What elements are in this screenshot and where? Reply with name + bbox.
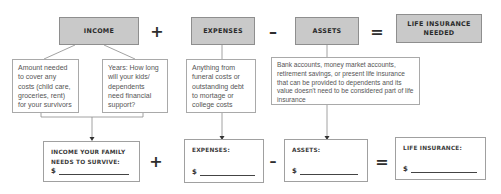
result-expenses-label: EXPENSES:: [192, 145, 256, 155]
result-income: INCOME YOUR FAMILY NEEDS TO SURVIVE: $: [43, 141, 140, 182]
connector-income-right: [104, 45, 135, 59]
operator-minus-bottom: –: [266, 149, 280, 173]
dollar-sign: $: [51, 167, 56, 175]
dollar-sign: $: [403, 165, 408, 173]
header-life-insurance-needed: LIFE INSURANCE NEEDED: [396, 14, 482, 43]
result-life-insurance: LIFE INSURANCE: $: [395, 137, 486, 180]
life-insurance-input[interactable]: $: [403, 165, 477, 173]
operator-equals-top: =: [368, 18, 386, 44]
dollar-sign: $: [192, 168, 197, 176]
result-assets: ASSETS: $: [284, 139, 368, 182]
operator-minus-top: –: [264, 18, 282, 44]
result-life-insurance-label: LIFE INSURANCE:: [403, 143, 478, 153]
description-income-amount: Amount needed to cover any costs (child …: [12, 59, 79, 113]
result-income-label: INCOME YOUR FAMILY NEEDS TO SURVIVE:: [51, 147, 131, 167]
header-expenses: EXPENSES: [191, 17, 255, 45]
description-assets: Bank accounts, money market accounts, re…: [271, 57, 420, 105]
header-expenses-label: EXPENSES: [203, 27, 243, 36]
result-assets-label: ASSETS:: [292, 145, 360, 155]
operator-plus-top: +: [148, 18, 166, 44]
expenses-input[interactable]: $: [192, 168, 255, 176]
connector-income-left: [44, 45, 75, 59]
operator-equals-bottom: =: [374, 149, 390, 173]
blank-line: [200, 174, 255, 176]
description-expenses: Anything from funeral costs or outstandi…: [186, 59, 256, 113]
header-assets-label: ASSETS: [313, 27, 342, 36]
connector-income-bracket: [41, 113, 143, 117]
header-assets: ASSETS: [295, 17, 359, 45]
header-life-insurance-label: LIFE INSURANCE NEEDED: [407, 20, 471, 37]
blank-line: [59, 173, 129, 175]
assets-input[interactable]: $: [292, 167, 358, 175]
header-income: INCOME: [59, 17, 139, 45]
operator-plus-bottom: +: [147, 149, 165, 173]
income-input[interactable]: $: [51, 167, 129, 175]
blank-line: [411, 171, 477, 173]
header-income-label: INCOME: [84, 27, 114, 36]
dollar-sign: $: [292, 167, 297, 175]
description-income-years: Years: How long will your kids/ dependen…: [102, 59, 168, 113]
blank-line: [300, 173, 358, 175]
result-expenses: EXPENSES: $: [184, 139, 264, 183]
